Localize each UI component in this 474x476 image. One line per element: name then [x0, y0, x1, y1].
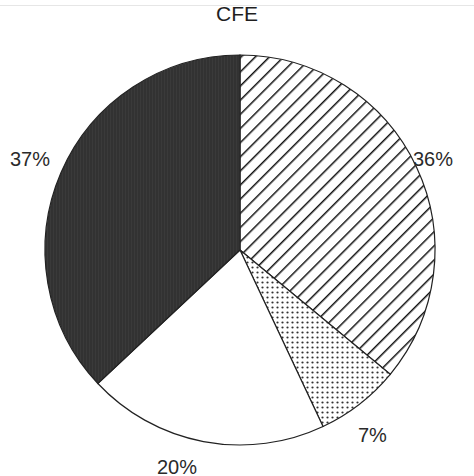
- slice-label-dotted: 7%: [358, 424, 387, 447]
- slice-label-white: 20%: [157, 456, 197, 476]
- slice-label-hatched: 36%: [413, 148, 453, 171]
- slice-label-dark: 37%: [10, 148, 50, 171]
- pie-chart: [0, 0, 474, 476]
- pie-slices: [45, 55, 435, 445]
